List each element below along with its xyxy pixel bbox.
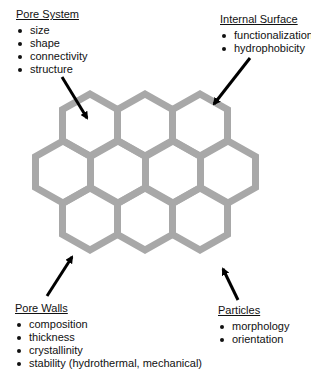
annotation-title: Pore Walls [15,302,202,315]
hexagon-pore [118,188,173,250]
annotation-title: Internal Surface [220,13,311,26]
arrow-internal-surface [214,58,250,104]
bullet-item: composition [15,318,202,331]
hexagon-pore [173,188,228,250]
bullet-item: morphology [218,320,289,333]
bullet-item: stability (hydrothermal, mechanical) [15,357,202,370]
bullet-item: structure [16,63,87,76]
arrow-particles [223,269,238,300]
annotation-internal-surface: Internal Surface functionalization hydro… [220,13,311,55]
bullet-item: orientation [218,333,289,346]
annotation-title: Pore System [16,8,87,21]
bullet-item: connectivity [16,50,87,63]
bullet-item: crystallinity [15,344,202,357]
annotation-particles: Particles morphology orientation [218,304,289,346]
hexagon-pore [63,188,118,250]
bullet-item: hydrophobicity [220,42,311,55]
hexagon-grid [36,94,256,250]
bullet-item: shape [16,37,87,50]
bullet-item: thickness [15,331,202,344]
arrow-pore-walls [47,257,72,296]
annotation-title: Particles [218,304,289,317]
annotation-pore-walls: Pore Walls composition thickness crystal… [15,302,202,370]
bullet-item: size [16,24,87,37]
bullet-item: functionalization [220,29,311,42]
annotation-pore-system: Pore System size shape connectivity stru… [16,8,87,76]
